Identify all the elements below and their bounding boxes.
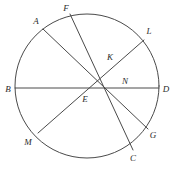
main-circle <box>15 14 159 158</box>
point-label-d: D <box>163 85 170 94</box>
point-label-l: L <box>146 27 151 36</box>
point-label-b: B <box>5 85 11 94</box>
point-label-f: F <box>63 4 69 13</box>
geometry-figure: A F L K N B D E G M C <box>0 0 174 176</box>
chord-a-g <box>43 29 148 129</box>
point-label-g: G <box>150 131 157 140</box>
point-label-a: A <box>33 17 39 26</box>
point-label-e: E <box>82 95 88 104</box>
point-label-c: C <box>130 154 136 163</box>
point-label-n: N <box>122 77 128 86</box>
chord-m-l <box>38 40 144 133</box>
point-label-k: K <box>107 53 113 62</box>
point-label-m: M <box>24 138 32 147</box>
